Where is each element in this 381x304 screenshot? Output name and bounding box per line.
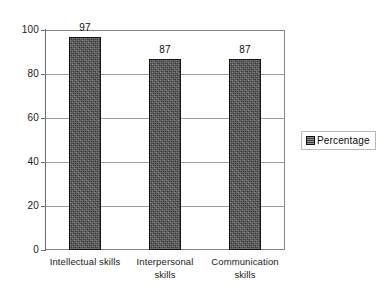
data-label-3: 87	[225, 45, 265, 55]
y-axis-tick: 40	[0, 157, 39, 167]
x-axis-label-3: Communicationskills	[205, 255, 285, 281]
y-axis-tick-mark	[41, 30, 45, 31]
x-axis-label-line: Communication	[205, 255, 285, 268]
bar-chart: 020406080100 978787 Intellectual skillsI…	[0, 0, 381, 304]
y-axis-line	[45, 29, 46, 251]
y-axis-tick: 100	[0, 25, 39, 35]
y-axis-tick-mark	[41, 250, 45, 251]
data-label-1: 97	[65, 23, 105, 33]
bar-3	[229, 59, 261, 250]
y-axis-tick-label: 60	[9, 113, 39, 123]
legend-swatch-percentage-icon	[306, 136, 315, 145]
y-axis-tick-mark	[41, 206, 45, 207]
y-axis-tick: 20	[0, 201, 39, 211]
y-axis-tick-mark	[41, 162, 45, 163]
x-axis-label-2: Interpersonalskills	[125, 255, 205, 281]
y-axis-tick: 60	[0, 113, 39, 123]
data-label-2: 87	[145, 45, 185, 55]
legend-label-percentage: Percentage	[317, 135, 370, 146]
bar-1	[69, 37, 101, 250]
x-axis-label-line: Interpersonal	[125, 255, 205, 268]
bar-2	[149, 59, 181, 250]
x-axis-label-1: Intellectual skills	[45, 255, 125, 268]
x-axis-label-line: skills	[205, 268, 285, 281]
y-axis-tick-label: 100	[9, 25, 39, 35]
legend: Percentage	[301, 131, 376, 150]
y-axis-tick-label: 20	[9, 201, 39, 211]
x-axis-label-line: Intellectual skills	[45, 255, 125, 268]
y-axis-tick-label: 40	[9, 157, 39, 167]
y-axis-tick-label: 0	[9, 245, 39, 255]
y-axis-tick: 80	[0, 69, 39, 79]
y-axis-tick: 0	[0, 245, 39, 255]
y-axis-tick-mark	[41, 118, 45, 119]
y-axis-tick-mark	[41, 74, 45, 75]
y-axis-tick-label: 80	[9, 69, 39, 79]
x-axis-label-line: skills	[125, 268, 205, 281]
